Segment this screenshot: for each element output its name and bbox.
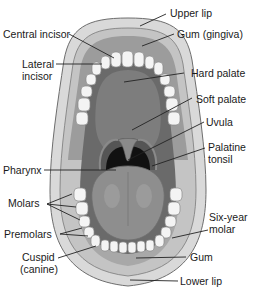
label-lateral-incisor-line2: incisor (22, 70, 52, 82)
label-upper-lip: Upper lip (170, 7, 212, 19)
label-cuspid-line2: (canine) (20, 263, 58, 275)
label-gum: Gum (190, 251, 213, 263)
label-gum-gingiva: Gum (gingiva) (177, 28, 243, 40)
label-lower-lip: Lower lip (180, 275, 222, 287)
label-six-year-molar-line1: Six-year (209, 211, 248, 223)
label-pharynx: Pharynx (3, 164, 42, 176)
label-premolars: Premolars (4, 228, 52, 240)
label-central-incisor: Central incisor (3, 28, 70, 40)
label-lateral-incisor-line1: Lateral (22, 58, 54, 70)
tongue-highlight-left (104, 184, 120, 208)
tongue-highlight-right (136, 184, 152, 208)
label-uvula: Uvula (206, 116, 233, 128)
label-hard-palate: Hard palate (191, 67, 245, 79)
mouth-anatomy-diagram: Upper lip Gum (gingiva) Central incisor … (0, 0, 257, 293)
label-palatine-tonsil-line2: tonsil (208, 153, 233, 165)
label-six-year-molar-line2: molar (209, 223, 235, 235)
label-soft-palate: Soft palate (196, 93, 246, 105)
label-cuspid-line1: Cuspid (22, 251, 55, 263)
label-palatine-tonsil-line1: Palatine (208, 141, 246, 153)
label-molars: Molars (8, 197, 40, 209)
